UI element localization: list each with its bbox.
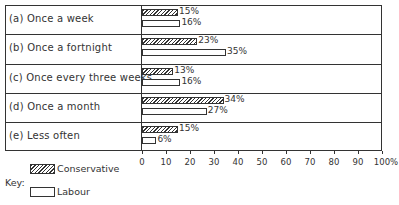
axis-tick: [358, 151, 359, 154]
conservative-bar: [142, 126, 178, 133]
axis-tick: [334, 151, 335, 154]
conservative-bar: [142, 97, 224, 104]
axis-tick-label: 0: [139, 157, 144, 167]
axis-tick-label: 40: [233, 157, 244, 167]
labour-value-label: 16%: [181, 17, 201, 27]
legend-labour-label: Labour: [57, 186, 90, 197]
conservative-bar: [142, 9, 178, 16]
row-divider: [5, 34, 382, 35]
conservative-bar: [142, 68, 173, 75]
legend-title: Key:: [5, 177, 25, 188]
conservative-value-label: 34%: [225, 94, 245, 104]
conservative-value-label: 13%: [174, 65, 194, 75]
labour-bar: [142, 20, 180, 27]
axis-tick-label: 60: [281, 157, 292, 167]
labour-value-label: 6%: [157, 134, 171, 144]
labour-bar: [142, 49, 226, 56]
legend-conservative-swatch: [30, 164, 55, 174]
labour-bar: [142, 79, 180, 86]
axis-tick: [166, 151, 167, 154]
legend-conservative-label: Conservative: [57, 163, 119, 174]
axis-tick: [262, 151, 263, 154]
category-label: (d) Once a month: [9, 101, 100, 112]
category-label: (c) Once every three weeks: [9, 72, 152, 83]
conservative-bar: [142, 38, 197, 45]
axis-tick-label: 10: [161, 157, 172, 167]
axis-tick: [382, 151, 383, 154]
axis-tick: [310, 151, 311, 154]
labour-bar: [142, 108, 207, 115]
axis-tick: [286, 151, 287, 154]
axis-tick-label: 100%: [374, 157, 398, 167]
axis-tick: [238, 151, 239, 154]
conservative-value-label: 15%: [179, 123, 199, 133]
axis-tick: [190, 151, 191, 154]
conservative-value-label: 15%: [179, 6, 199, 16]
conservative-value-label: 23%: [198, 35, 218, 45]
category-label: (a) Once a week: [9, 13, 94, 24]
axis-tick: [142, 151, 143, 154]
axis-tick-label: 20: [185, 157, 196, 167]
axis-tick-label: 30: [209, 157, 220, 167]
axis-tick-label: 80: [329, 157, 340, 167]
axis-tick: [214, 151, 215, 154]
category-label: (e) Less often: [9, 130, 80, 141]
axis-tick-label: 50: [257, 157, 268, 167]
legend-labour-swatch: [30, 187, 55, 197]
axis-tick-label: 90: [353, 157, 364, 167]
labour-value-label: 27%: [208, 105, 228, 115]
labour-value-label: 35%: [227, 46, 247, 56]
labour-bar: [142, 137, 156, 144]
row-divider: [5, 93, 382, 94]
labour-value-label: 16%: [181, 76, 201, 86]
category-label: (b) Once a fortnight: [9, 42, 112, 53]
axis-tick-label: 70: [305, 157, 316, 167]
